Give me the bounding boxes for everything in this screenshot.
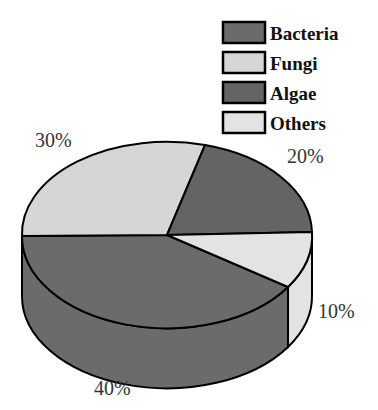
legend-swatch-algae <box>223 82 265 103</box>
legend-swatch-bacteria <box>223 22 265 43</box>
label-fungi-pct: 30% <box>35 129 72 151</box>
label-others-pct: 10% <box>318 300 355 322</box>
label-bacteria-pct: 40% <box>94 377 131 399</box>
legend-label-algae: Algae <box>270 83 316 104</box>
legend-swatch-others <box>223 112 265 133</box>
legend: Bacteria Fungi Algae Others <box>223 22 339 134</box>
label-algae-pct: 20% <box>287 145 324 167</box>
legend-label-others: Others <box>270 113 326 134</box>
legend-label-bacteria: Bacteria <box>270 23 339 44</box>
legend-swatch-fungi <box>223 52 265 73</box>
pie-chart: 30% 20% 10% 40% Bacteria Fungi Algae Oth… <box>0 0 378 410</box>
legend-label-fungi: Fungi <box>270 53 318 74</box>
